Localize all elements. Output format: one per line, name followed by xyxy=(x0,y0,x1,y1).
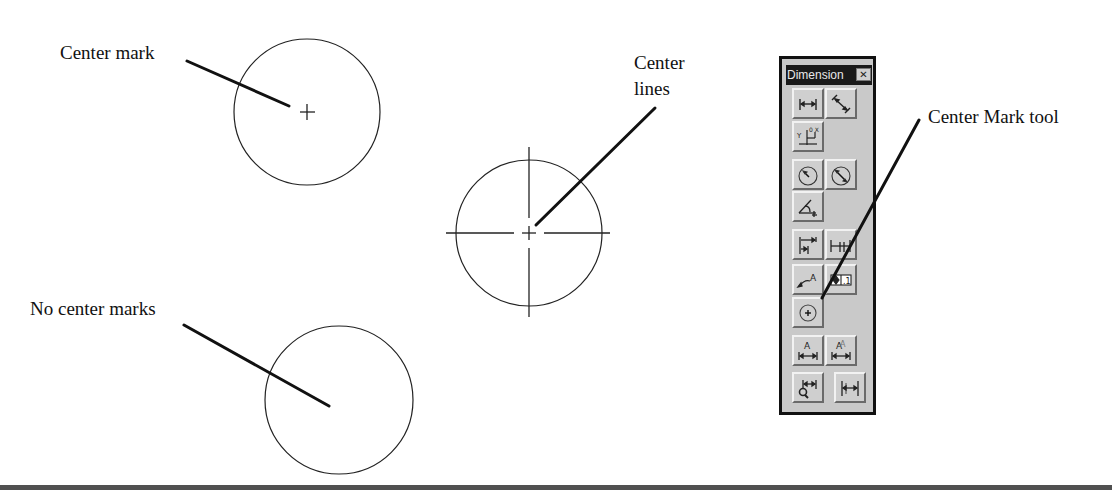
leader-center-mark xyxy=(187,61,289,106)
circle-no-center-marks xyxy=(265,326,413,474)
leader-no-center-marks xyxy=(184,325,329,406)
continue-dimension-button[interactable] xyxy=(825,229,857,260)
drawing-canvas xyxy=(0,0,1112,493)
label-center-lines-1: Center xyxy=(634,52,685,74)
svg-text:Y: Y xyxy=(796,132,802,140)
toolbar-title: Dimension xyxy=(787,68,844,82)
dimension-update-button[interactable] xyxy=(834,372,866,403)
toolbar-title-bar[interactable]: Dimension ✕ xyxy=(786,65,872,85)
center-lines xyxy=(446,147,610,317)
quick-leader-button[interactable]: A xyxy=(792,264,824,295)
ordinate-dimension-icon: Y 0 X xyxy=(795,124,821,150)
dimension-style-button[interactable] xyxy=(792,372,824,403)
center-mark-button[interactable] xyxy=(792,297,824,328)
label-center-mark: Center mark xyxy=(60,42,154,64)
dimension-update-icon xyxy=(837,375,863,401)
svg-text:A: A xyxy=(840,340,846,349)
dimension-edit-icon: A xyxy=(795,338,821,364)
continue-dimension-icon xyxy=(828,232,854,258)
label-center-lines-2: lines xyxy=(634,78,670,100)
angular-dimension-button[interactable] xyxy=(792,191,824,222)
ordinate-dimension-button[interactable]: Y 0 X xyxy=(792,121,824,152)
dimension-edit-button[interactable]: A xyxy=(792,335,824,366)
dimension-text-edit-button[interactable]: A A xyxy=(825,335,857,366)
close-button[interactable]: ✕ xyxy=(856,68,871,81)
svg-text:A: A xyxy=(804,341,811,351)
aligned-dimension-icon xyxy=(828,91,854,117)
aligned-dimension-button[interactable] xyxy=(825,88,857,119)
linear-dimension-icon xyxy=(795,91,821,117)
radius-dimension-button[interactable] xyxy=(792,159,824,190)
diameter-dimension-icon xyxy=(828,162,854,188)
dimension-style-icon xyxy=(795,375,821,401)
close-icon: ✕ xyxy=(859,69,867,80)
linear-dimension-button[interactable] xyxy=(792,88,824,119)
leader-center-lines xyxy=(536,108,655,225)
leader-icon: A xyxy=(795,267,821,293)
center-mark-cross xyxy=(300,104,315,120)
tolerance-button[interactable]: .1 xyxy=(825,264,857,295)
svg-text:.1: .1 xyxy=(843,277,851,286)
dimension-text-edit-icon: A A xyxy=(828,338,854,364)
svg-text:A: A xyxy=(810,273,817,283)
svg-text:0 X: 0 X xyxy=(809,126,819,133)
label-no-center-marks: No center marks xyxy=(30,298,156,320)
label-center-mark-tool: Center Mark tool xyxy=(928,106,1059,128)
center-mark-icon xyxy=(795,300,821,326)
baseline-dimension-icon xyxy=(795,232,821,258)
baseline-dimension-button[interactable] xyxy=(792,229,824,260)
tolerance-icon: .1 xyxy=(828,267,854,293)
diameter-dimension-button[interactable] xyxy=(825,159,857,190)
radius-dimension-icon xyxy=(795,162,821,188)
bottom-rule xyxy=(0,485,1112,490)
dimension-toolbar: Dimension ✕ Y 0 X xyxy=(779,56,876,415)
angular-dimension-icon xyxy=(795,194,821,220)
